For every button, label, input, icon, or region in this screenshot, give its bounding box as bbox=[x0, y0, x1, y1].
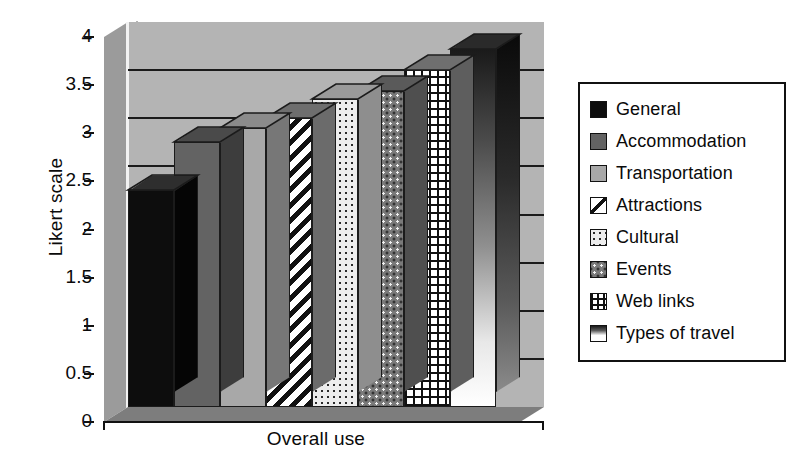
legend-item[interactable]: Accommodation bbox=[590, 125, 784, 157]
y-axis-ticks: 43.532.521.510.50 bbox=[20, 0, 92, 464]
chart-floor bbox=[104, 407, 544, 422]
y-tick-label: 0 bbox=[30, 411, 92, 430]
bar-front-face bbox=[128, 190, 174, 407]
y-tick-label: 2.5 bbox=[30, 170, 92, 189]
y-tick-mark bbox=[84, 421, 94, 423]
legend-swatch-icon bbox=[590, 325, 607, 342]
legend-item-label: Cultural bbox=[616, 227, 679, 248]
legend-item-label: Types of travel bbox=[616, 323, 735, 344]
plot-area bbox=[104, 22, 544, 422]
legend-item[interactable]: General bbox=[590, 93, 784, 125]
legend-item[interactable]: Cultural bbox=[590, 221, 784, 253]
legend-swatch-icon bbox=[590, 293, 607, 310]
y-tick-label: 3.5 bbox=[30, 74, 92, 93]
legend-item[interactable]: Events bbox=[590, 253, 784, 285]
legend-item[interactable]: Web links bbox=[590, 285, 784, 317]
y-tick-label: 0.5 bbox=[30, 363, 92, 382]
legend-swatch-icon bbox=[590, 101, 607, 118]
x-axis-title: Overall use bbox=[96, 428, 536, 450]
bar-side-face bbox=[312, 103, 336, 392]
bar-side-face bbox=[266, 113, 290, 392]
legend-item[interactable]: Types of travel bbox=[590, 317, 784, 349]
y-tick-label: 2 bbox=[30, 219, 92, 238]
legend-swatch-icon bbox=[590, 197, 607, 214]
legend-item[interactable]: Transportation bbox=[590, 157, 784, 189]
y-tick-label: 4 bbox=[30, 26, 92, 45]
legend-item-label: Transportation bbox=[616, 163, 733, 184]
y-tick-mark bbox=[84, 180, 94, 182]
y-tick-label: 1 bbox=[30, 315, 92, 334]
y-tick-label: 1.5 bbox=[30, 267, 92, 286]
bar-side-face bbox=[496, 34, 520, 392]
y-tick-label: 3 bbox=[30, 122, 92, 141]
legend-item[interactable]: Attractions bbox=[590, 189, 784, 221]
bar-side-face bbox=[358, 84, 382, 392]
chart-figure: Likert scale 43.532.521.510.50 Overall u… bbox=[0, 0, 794, 464]
x-axis-line bbox=[104, 421, 544, 423]
y-tick-mark bbox=[84, 325, 94, 327]
legend-item-label: Accommodation bbox=[616, 131, 746, 152]
legend-swatch-icon bbox=[590, 229, 607, 246]
y-tick-mark bbox=[84, 36, 94, 38]
legend-swatch-icon bbox=[590, 261, 607, 278]
legend-swatch-icon bbox=[590, 133, 607, 150]
legend-item-label: General bbox=[616, 99, 681, 120]
chart-bars bbox=[104, 22, 544, 422]
bar-side-face bbox=[450, 55, 474, 392]
y-tick-mark bbox=[84, 277, 94, 279]
y-tick-mark bbox=[84, 373, 94, 375]
legend-swatch-icon bbox=[590, 165, 607, 182]
bar-side-face bbox=[404, 76, 428, 392]
bar-side-face bbox=[220, 127, 244, 392]
legend-item-label: Web links bbox=[616, 291, 695, 312]
bar-side-face bbox=[174, 175, 198, 392]
legend-item-label: Attractions bbox=[616, 195, 702, 216]
y-tick-mark bbox=[84, 229, 94, 231]
x-axis-right-tick bbox=[542, 421, 544, 430]
y-tick-mark bbox=[84, 84, 94, 86]
y-tick-mark bbox=[84, 132, 94, 134]
bar-column bbox=[128, 190, 174, 407]
legend-item-label: Events bbox=[616, 259, 672, 280]
chart-legend: GeneralAccommodationTransportationAttrac… bbox=[578, 82, 786, 362]
